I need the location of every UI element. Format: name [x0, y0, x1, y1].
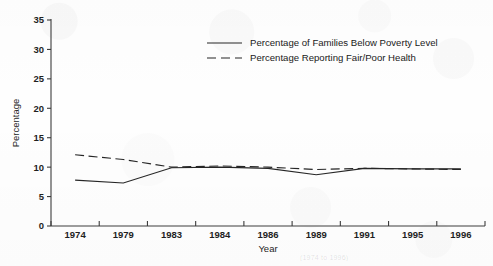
clipped-caption-fragment: (1974 to 1996) — [300, 254, 490, 261]
x-tick-label: 1996 — [450, 229, 471, 240]
x-axis-title: Year — [258, 243, 277, 254]
x-tick-label: 1974 — [65, 229, 87, 240]
x-tick-label: 1991 — [354, 229, 376, 240]
legend-label-1: Percentage of Families Below Poverty Lev… — [250, 37, 438, 48]
legend-label-2: Percentage Reporting Fair/Poor Health — [250, 52, 416, 63]
y-tick-label: 15 — [33, 132, 44, 143]
x-axis: 197419791983198419861989199119951996 — [51, 221, 485, 240]
y-tick-label: 30 — [33, 44, 44, 55]
y-tick-label: 5 — [39, 191, 45, 202]
x-tick-label: 1983 — [161, 229, 182, 240]
figure-canvas: 05101520253035 1974197919831984198619891… — [0, 0, 493, 266]
x-tick-label: 1986 — [257, 229, 278, 240]
line-chart: 05101520253035 1974197919831984198619891… — [0, 0, 493, 266]
x-tick-label: 1984 — [209, 229, 231, 240]
y-axis-title: Percentage — [10, 99, 21, 148]
y-axis: 05101520253035 — [33, 14, 51, 231]
y-tick-label: 20 — [33, 103, 44, 114]
series-line-2 — [75, 155, 461, 170]
y-tick-label: 35 — [33, 14, 44, 25]
series-lines — [75, 155, 461, 183]
x-tick-label: 1979 — [113, 229, 134, 240]
y-tick-label: 25 — [33, 73, 44, 84]
chart-legend: Percentage of Families Below Poverty Lev… — [207, 37, 438, 63]
series-line-1 — [75, 167, 461, 183]
x-tick-label: 1995 — [402, 229, 424, 240]
y-tick-label: 10 — [33, 162, 44, 173]
x-tick-label: 1989 — [306, 229, 327, 240]
y-tick-label: 0 — [39, 220, 44, 231]
